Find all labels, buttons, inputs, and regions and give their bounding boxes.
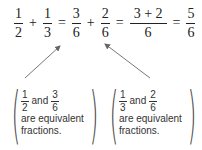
left-paren: ( (110, 86, 118, 144)
arrow-left (25, 46, 60, 78)
denominator: 6 (52, 102, 58, 113)
and-text: and (130, 95, 147, 107)
note-right: ( 13 and 26 are equivalent fractions. ) (110, 86, 196, 144)
note-left: ( 12 and 36 are equivalent fractions. ) (12, 86, 98, 144)
fraction: 13 (119, 90, 127, 113)
fraction: 36 (51, 90, 59, 113)
and-text: and (32, 95, 49, 107)
denominator: 6 (150, 102, 156, 113)
left-paren: ( (12, 86, 20, 144)
note-text: fractions. (21, 125, 84, 137)
arrow-right (105, 44, 150, 78)
fraction: 12 (21, 90, 29, 113)
numerator: 2 (149, 90, 157, 102)
numerator: 1 (119, 90, 127, 102)
numerator: 3 (51, 90, 59, 102)
denominator: 2 (22, 102, 28, 113)
right-paren: ) (90, 86, 98, 144)
numerator: 1 (21, 90, 29, 102)
note-text: fractions. (119, 125, 182, 137)
note-text: are equivalent (21, 113, 84, 125)
denominator: 3 (120, 102, 126, 113)
note-text: are equivalent (119, 113, 182, 125)
fraction: 26 (149, 90, 157, 113)
right-paren: ) (188, 86, 196, 144)
